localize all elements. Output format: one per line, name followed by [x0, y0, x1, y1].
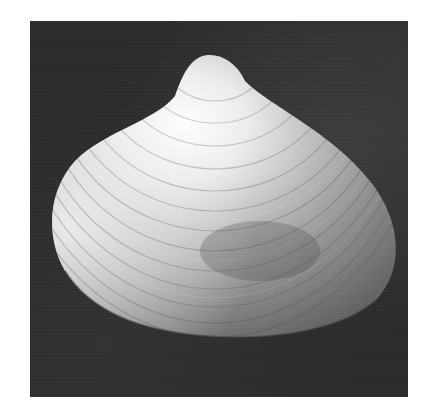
shell-photograph	[30, 21, 408, 397]
clam-shell	[30, 21, 408, 397]
